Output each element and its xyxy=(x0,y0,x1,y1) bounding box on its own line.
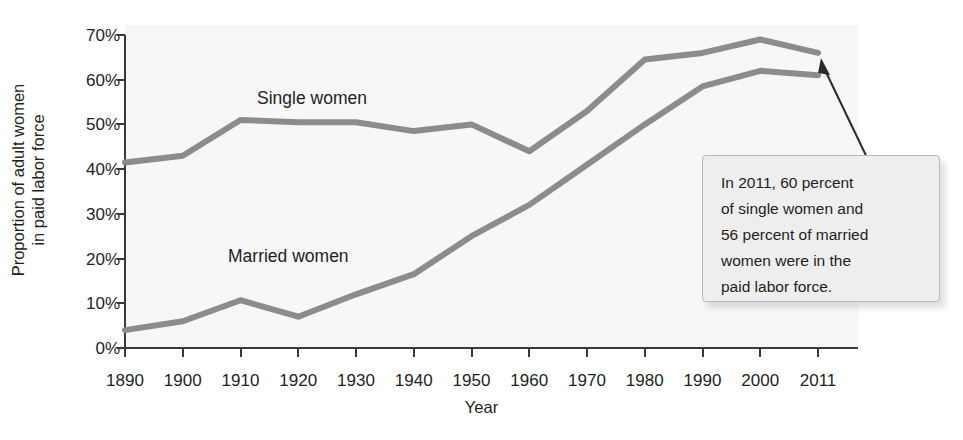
x-axis-tick-label: 1990 xyxy=(684,372,722,389)
x-axis-tick-label: 1930 xyxy=(337,372,375,389)
x-axis-tick-label: 1970 xyxy=(568,372,606,389)
annotation-callout-line: of single women and xyxy=(721,196,923,222)
x-axis-tick-label: 1910 xyxy=(222,372,260,389)
x-axis-tick-label: 1900 xyxy=(164,372,202,389)
annotation-callout-line: 56 percent of married xyxy=(721,222,923,248)
x-axis-tick-labels: 1890190019101920193019401950196019701980… xyxy=(0,358,963,388)
x-axis-tick-label: 2011 xyxy=(800,372,837,389)
x-axis-tick-label: 1950 xyxy=(453,372,491,389)
annotation-callout-text: In 2011, 60 percentof single women and56… xyxy=(721,170,923,300)
x-axis-tick-label: 1940 xyxy=(395,372,433,389)
x-axis-tick-label: 1920 xyxy=(279,372,317,389)
series-label-married-women: Married women xyxy=(228,246,349,267)
annotation-callout-line: paid labor force. xyxy=(721,274,923,300)
annotation-callout: In 2011, 60 percentof single women and56… xyxy=(702,155,940,302)
x-axis-tick-label: 1890 xyxy=(106,372,144,389)
x-axis-tick-label: 1980 xyxy=(626,372,664,389)
annotation-callout-line: women were in the xyxy=(721,248,923,274)
x-axis-title: Year xyxy=(0,398,963,417)
series-label-single-women: Single women xyxy=(257,88,367,109)
x-axis-tick-label: 1960 xyxy=(510,372,548,389)
x-axis-tick-label: 2000 xyxy=(741,372,779,389)
annotation-callout-line: In 2011, 60 percent xyxy=(721,170,923,196)
chart-figure: Proportion of adult women in paid labor … xyxy=(0,0,963,440)
